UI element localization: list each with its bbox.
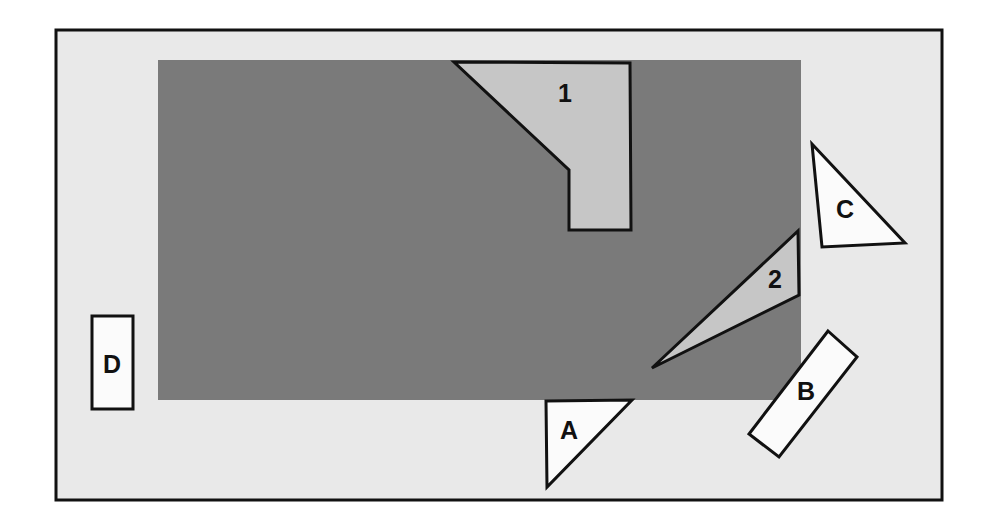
piece-a-label: A: [560, 416, 578, 444]
piece-d-label: D: [103, 350, 121, 378]
figure-canvas: 12ABCD: [0, 0, 985, 527]
gray-base-rectangle: [158, 60, 801, 400]
shape-diagram: 12ABCD: [0, 0, 985, 527]
piece-2-label: 2: [768, 265, 782, 293]
piece-c-label: C: [836, 195, 854, 223]
piece-b-label: B: [797, 377, 815, 405]
piece-1-label: 1: [558, 79, 572, 107]
piece-d[interactable]: D: [92, 316, 133, 409]
